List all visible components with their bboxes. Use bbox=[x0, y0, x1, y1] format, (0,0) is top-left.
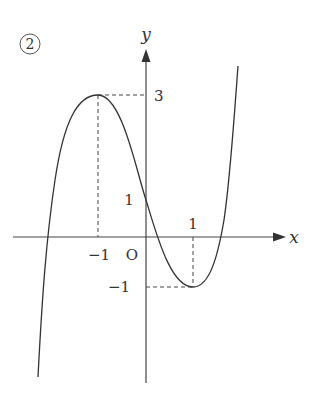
x-tick-label-1: 1 bbox=[188, 215, 198, 233]
x-axis-label: x bbox=[289, 227, 299, 247]
function-curve bbox=[38, 66, 238, 377]
y-tick-label-1: 1 bbox=[124, 191, 134, 209]
figure-label: 2 bbox=[26, 36, 35, 52]
y-tick-label-3: 3 bbox=[154, 87, 164, 105]
x-axis-arrow-icon bbox=[273, 233, 286, 242]
origin-label: O bbox=[126, 246, 138, 264]
cubic-function-graph: 2 y x 3 1 −1 −1 1 O bbox=[0, 0, 309, 406]
y-axis-arrow-icon bbox=[142, 49, 151, 62]
y-axis-label: y bbox=[140, 24, 151, 44]
x-tick-label-neg1: −1 bbox=[88, 246, 110, 264]
y-tick-label-neg1: −1 bbox=[108, 278, 130, 296]
